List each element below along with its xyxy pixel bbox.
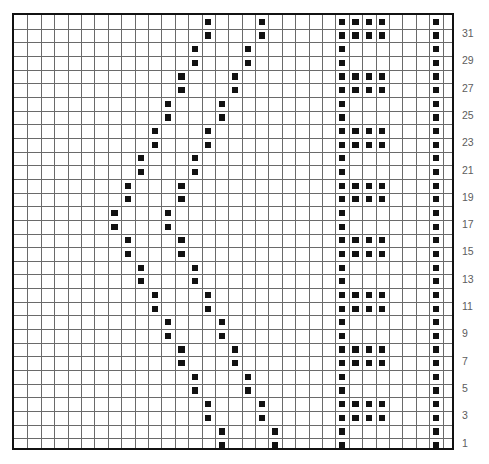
stitch-mark[interactable] bbox=[433, 87, 439, 93]
stitch-mark[interactable] bbox=[379, 183, 385, 189]
stitch-mark[interactable] bbox=[339, 32, 345, 38]
stitch-mark[interactable] bbox=[165, 224, 171, 230]
stitch-mark[interactable] bbox=[433, 306, 439, 312]
stitch-mark[interactable] bbox=[379, 32, 385, 38]
stitch-mark[interactable] bbox=[259, 32, 265, 38]
stitch-mark[interactable] bbox=[379, 142, 385, 148]
stitch-mark[interactable] bbox=[433, 114, 439, 120]
stitch-mark[interactable] bbox=[152, 306, 158, 312]
stitch-mark[interactable] bbox=[379, 128, 385, 134]
stitch-mark[interactable] bbox=[339, 73, 345, 79]
stitch-mark[interactable] bbox=[433, 387, 439, 393]
stitch-mark[interactable] bbox=[339, 101, 345, 107]
stitch-mark[interactable] bbox=[339, 237, 345, 243]
stitch-mark[interactable] bbox=[352, 237, 358, 243]
stitch-mark[interactable] bbox=[178, 346, 184, 352]
stitch-mark[interactable] bbox=[152, 142, 158, 148]
stitch-mark[interactable] bbox=[433, 360, 439, 366]
stitch-mark[interactable] bbox=[433, 415, 439, 421]
stitch-mark[interactable] bbox=[178, 73, 184, 79]
stitch-mark[interactable] bbox=[433, 278, 439, 284]
stitch-mark[interactable] bbox=[433, 292, 439, 298]
stitch-mark[interactable] bbox=[433, 237, 439, 243]
stitch-mark[interactable] bbox=[366, 401, 372, 407]
stitch-mark[interactable] bbox=[272, 442, 278, 448]
stitch-mark[interactable] bbox=[339, 306, 345, 312]
stitch-mark[interactable] bbox=[125, 251, 131, 257]
stitch-mark[interactable] bbox=[339, 251, 345, 257]
stitch-mark[interactable] bbox=[125, 237, 131, 243]
stitch-mark[interactable] bbox=[111, 210, 117, 216]
stitch-mark[interactable] bbox=[433, 19, 439, 25]
stitch-mark[interactable] bbox=[339, 60, 345, 66]
stitch-mark[interactable] bbox=[366, 237, 372, 243]
stitch-mark[interactable] bbox=[433, 183, 439, 189]
stitch-mark[interactable] bbox=[178, 237, 184, 243]
stitch-mark[interactable] bbox=[366, 306, 372, 312]
stitch-mark[interactable] bbox=[352, 415, 358, 421]
stitch-mark[interactable] bbox=[339, 428, 345, 434]
stitch-mark[interactable] bbox=[352, 128, 358, 134]
stitch-mark[interactable] bbox=[138, 278, 144, 284]
stitch-mark[interactable] bbox=[339, 415, 345, 421]
stitch-mark[interactable] bbox=[192, 387, 198, 393]
stitch-mark[interactable] bbox=[245, 46, 251, 52]
stitch-mark[interactable] bbox=[125, 196, 131, 202]
stitch-mark[interactable] bbox=[219, 319, 225, 325]
stitch-mark[interactable] bbox=[165, 114, 171, 120]
stitch-mark[interactable] bbox=[339, 87, 345, 93]
stitch-mark[interactable] bbox=[232, 73, 238, 79]
stitch-mark[interactable] bbox=[339, 319, 345, 325]
stitch-mark[interactable] bbox=[205, 142, 211, 148]
stitch-mark[interactable] bbox=[433, 224, 439, 230]
stitch-mark[interactable] bbox=[379, 19, 385, 25]
stitch-mark[interactable] bbox=[165, 210, 171, 216]
stitch-mark[interactable] bbox=[192, 374, 198, 380]
stitch-mark[interactable] bbox=[219, 101, 225, 107]
stitch-mark[interactable] bbox=[152, 128, 158, 134]
stitch-mark[interactable] bbox=[433, 169, 439, 175]
stitch-mark[interactable] bbox=[339, 224, 345, 230]
stitch-mark[interactable] bbox=[192, 60, 198, 66]
stitch-mark[interactable] bbox=[259, 19, 265, 25]
stitch-mark[interactable] bbox=[352, 306, 358, 312]
stitch-mark[interactable] bbox=[433, 101, 439, 107]
stitch-mark[interactable] bbox=[366, 183, 372, 189]
stitch-mark[interactable] bbox=[219, 428, 225, 434]
stitch-mark[interactable] bbox=[366, 346, 372, 352]
stitch-mark[interactable] bbox=[433, 374, 439, 380]
stitch-mark[interactable] bbox=[245, 374, 251, 380]
stitch-mark[interactable] bbox=[366, 87, 372, 93]
stitch-mark[interactable] bbox=[433, 319, 439, 325]
stitch-mark[interactable] bbox=[433, 428, 439, 434]
stitch-mark[interactable] bbox=[138, 155, 144, 161]
stitch-mark[interactable] bbox=[339, 401, 345, 407]
stitch-mark[interactable] bbox=[192, 155, 198, 161]
stitch-mark[interactable] bbox=[339, 374, 345, 380]
stitch-mark[interactable] bbox=[192, 169, 198, 175]
stitch-mark[interactable] bbox=[165, 333, 171, 339]
stitch-mark[interactable] bbox=[339, 183, 345, 189]
stitch-mark[interactable] bbox=[339, 114, 345, 120]
stitch-mark[interactable] bbox=[366, 32, 372, 38]
stitch-mark[interactable] bbox=[379, 360, 385, 366]
stitch-mark[interactable] bbox=[433, 32, 439, 38]
stitch-mark[interactable] bbox=[433, 210, 439, 216]
stitch-mark[interactable] bbox=[245, 387, 251, 393]
stitch-mark[interactable] bbox=[259, 401, 265, 407]
stitch-mark[interactable] bbox=[178, 196, 184, 202]
stitch-mark[interactable] bbox=[178, 251, 184, 257]
stitch-mark[interactable] bbox=[232, 87, 238, 93]
stitch-mark[interactable] bbox=[379, 251, 385, 257]
stitch-mark[interactable] bbox=[339, 387, 345, 393]
stitch-mark[interactable] bbox=[352, 87, 358, 93]
stitch-mark[interactable] bbox=[352, 73, 358, 79]
stitch-mark[interactable] bbox=[379, 415, 385, 421]
stitch-mark[interactable] bbox=[366, 142, 372, 148]
stitch-mark[interactable] bbox=[219, 333, 225, 339]
stitch-mark[interactable] bbox=[352, 292, 358, 298]
stitch-mark[interactable] bbox=[433, 46, 439, 52]
stitch-mark[interactable] bbox=[339, 442, 345, 448]
stitch-mark[interactable] bbox=[192, 46, 198, 52]
stitch-mark[interactable] bbox=[165, 101, 171, 107]
